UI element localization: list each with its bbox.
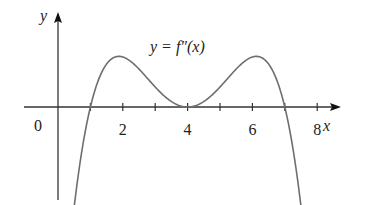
x-tick-label: 4 <box>184 121 192 138</box>
origin-label: 0 <box>34 117 42 134</box>
x-tick-label: 8 <box>313 121 321 138</box>
chart-figure: y x 0 y = f″(x) 2468 <box>0 0 371 205</box>
curve-label: y = f″(x) <box>148 38 205 56</box>
plot-area: y x 0 y = f″(x) 2468 <box>0 0 371 205</box>
x-axis-label: x <box>322 117 330 134</box>
y-axis-label: y <box>38 7 48 25</box>
x-tick-label: 6 <box>248 121 256 138</box>
x-tick-label: 2 <box>119 121 127 138</box>
